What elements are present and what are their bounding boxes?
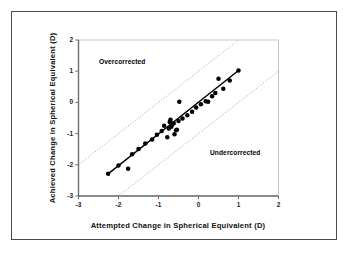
data-point	[150, 137, 155, 142]
y-axis-title: Achieved Change in Spherical Equivalent …	[48, 33, 57, 204]
x-tick-label: -1	[156, 202, 162, 209]
data-point	[143, 141, 148, 146]
data-point	[213, 91, 218, 96]
data-point	[176, 119, 181, 124]
data-point	[171, 121, 176, 126]
y-tick-label: 0	[0, 99, 73, 106]
data-point	[159, 129, 164, 134]
data-point	[165, 135, 170, 140]
data-point	[180, 116, 185, 121]
data-point	[194, 105, 199, 110]
figure-container: -3-2-1012 -3-2-1012 Attempted Change in …	[0, 0, 350, 253]
data-point	[130, 152, 135, 157]
data-point	[185, 113, 190, 118]
data-point	[236, 68, 241, 73]
data-point	[116, 163, 121, 168]
data-point	[199, 102, 204, 107]
data-point	[155, 133, 160, 138]
x-axis-title: Attempted Change in Spherical Equivalent…	[91, 221, 266, 230]
overcorrected-region-label: Overcorrected	[99, 58, 145, 65]
x-tick-label: -2	[116, 202, 122, 209]
data-point	[206, 100, 211, 105]
data-point	[216, 76, 221, 81]
data-point	[172, 132, 177, 137]
x-tick-label: 2	[277, 202, 281, 209]
data-point	[126, 167, 131, 172]
y-tick-label: -1	[0, 130, 73, 137]
data-point	[136, 147, 141, 152]
undercorrected-region-label: Undercorrected	[210, 149, 261, 156]
data-point	[227, 78, 232, 83]
y-tick-label: -2	[0, 162, 73, 169]
data-point	[221, 86, 226, 91]
y-tick-label: 2	[0, 37, 73, 44]
y-tick-label: 1	[0, 68, 73, 75]
y-tick-label: -3	[0, 193, 73, 200]
data-point	[190, 110, 195, 115]
data-point	[175, 128, 180, 133]
data-point	[162, 124, 167, 129]
x-tick-label: 1	[237, 202, 241, 209]
x-tick-label: 0	[197, 202, 201, 209]
data-point	[106, 172, 111, 177]
data-point	[168, 118, 173, 123]
x-tick-label: -3	[76, 202, 82, 209]
data-point	[177, 100, 182, 105]
